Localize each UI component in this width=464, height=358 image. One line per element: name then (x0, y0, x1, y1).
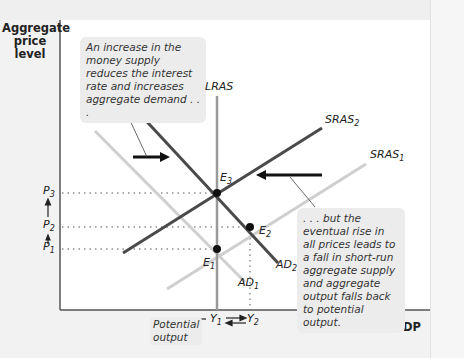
callout-money-supply: An increase in the money supply reduces … (80, 37, 206, 123)
e1-point (213, 245, 221, 253)
y2-label: Y2 (247, 312, 259, 327)
e2-label: E2 (259, 224, 271, 239)
lras-label: LRAS (205, 80, 233, 93)
p2-label: P2 (43, 218, 55, 233)
ad2-label: AD2 (276, 258, 297, 273)
ad1-curve (95, 131, 245, 282)
sras-shift-arrow (256, 170, 322, 180)
callout-price-rise: . . . but the eventual rise in all price… (297, 208, 405, 333)
p3-label: P3 (43, 184, 55, 199)
e3-label: E3 (220, 171, 232, 186)
ad2-curve (137, 111, 278, 263)
sras2-label: SRAS2 (325, 113, 359, 128)
y-axis-label: Aggregate price level (2, 22, 58, 61)
ad-shift-arrow (133, 152, 170, 162)
p1-label: P1 (43, 240, 55, 255)
potential-output-label: Potential output (150, 317, 202, 345)
ad1-label: AD1 (238, 276, 259, 291)
y1-label: Y1 (210, 312, 222, 327)
y-label-line: level (2, 48, 58, 61)
e1-label: E1 (203, 256, 215, 271)
sras1-label: SRAS1 (370, 148, 404, 163)
output-arrows (198, 316, 246, 326)
e3-point (213, 189, 221, 197)
e2-point (246, 223, 254, 231)
dotted-guides (62, 193, 250, 310)
